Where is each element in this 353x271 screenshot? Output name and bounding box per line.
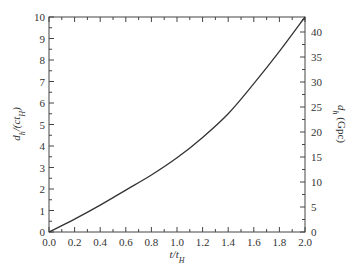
x-tick-label: 0.2: [68, 236, 82, 248]
x-tick-label: 0.6: [119, 236, 133, 248]
y-right-tick-label: 25: [311, 101, 323, 113]
y-tick-label: 3: [40, 162, 46, 174]
y-tick-label: 7: [40, 76, 46, 88]
y-tick-label: 2: [40, 183, 46, 195]
y-right-tick-label: 35: [311, 51, 323, 63]
x-tick-label: 1.8: [273, 236, 287, 248]
axis-ticks: [49, 17, 305, 232]
data-line: [49, 17, 305, 232]
y-tick-label: 10: [34, 11, 46, 23]
y-axis-label-left: dh/(ctH): [10, 107, 27, 141]
x-tick-label: 1.2: [196, 236, 210, 248]
y-tick-label: 6: [40, 97, 46, 109]
plot-frame: [49, 17, 305, 232]
x-axis-label: t/tH: [170, 248, 186, 265]
x-tick-label: 0.4: [93, 236, 107, 248]
tick-labels: 0.00.20.40.60.81.01.21.41.61.82.00123456…: [34, 11, 323, 248]
y-tick-label: 5: [40, 119, 46, 131]
y-right-tick-label: 15: [311, 151, 323, 163]
y-right-tick-label: 10: [311, 176, 323, 188]
y-right-tick-label: 5: [311, 201, 317, 213]
y-axis-label-right: dh (Gpc): [332, 105, 349, 143]
x-tick-label: 0.8: [145, 236, 159, 248]
y-right-tick-label: 20: [311, 126, 323, 138]
x-tick-label: 1.6: [247, 236, 261, 248]
x-tick-label: 1.4: [221, 236, 235, 248]
y-tick-label: 4: [40, 140, 46, 152]
y-right-tick-label: 30: [311, 76, 323, 88]
y-tick-label: 8: [40, 54, 46, 66]
y-tick-label: 1: [40, 205, 46, 217]
x-tick-label: 1.0: [170, 236, 184, 248]
y-right-tick-label: 40: [311, 26, 323, 38]
y-tick-label: 0: [40, 226, 46, 238]
chart: 0.00.20.40.60.81.01.21.41.61.82.00123456…: [0, 0, 353, 271]
y-right-tick-label: 0: [311, 226, 317, 238]
y-tick-label: 9: [40, 33, 46, 45]
